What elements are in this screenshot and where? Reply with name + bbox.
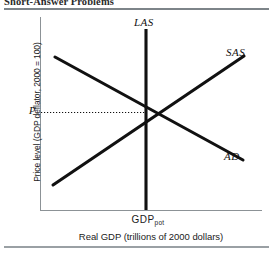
x-axis-title: Real GDP (trillions of 2000 dollars)	[33, 231, 269, 242]
ad-curve-label: AD	[224, 150, 240, 162]
ad-curve	[55, 57, 243, 160]
potential-gdp-label-subscript: pot	[154, 219, 164, 226]
potential-gdp-label: GDPpot	[108, 214, 188, 225]
chart-page: Short-Answer Problems LAS SAS AD P Price…	[0, 0, 273, 259]
las-curve-label: LAS	[134, 16, 154, 28]
potential-gdp-label-text: GDP	[132, 214, 155, 225]
sas-curve-label: SAS	[226, 46, 245, 58]
footer-divider-rule	[4, 246, 269, 248]
y-axis-title: Price level (GDP deflator, 2000 = 100)	[32, 12, 42, 212]
sas-curve	[53, 56, 244, 185]
